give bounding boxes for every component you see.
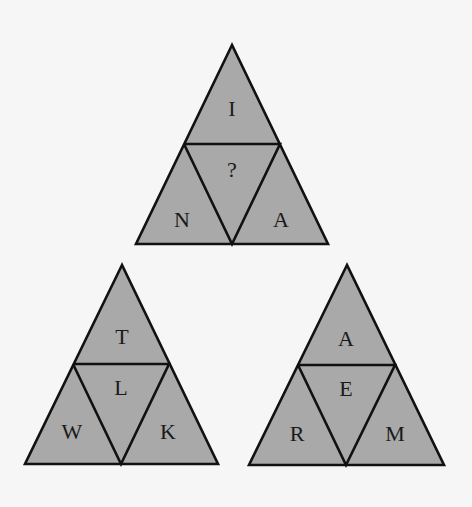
triangle-top: I ? N A bbox=[136, 45, 328, 244]
triangle-top-right-letter: A bbox=[273, 207, 289, 232]
triangle-bottom-right-left-letter: R bbox=[290, 421, 305, 446]
triangle-bottom-left: T L W K bbox=[25, 265, 218, 464]
triangle-top-top-letter: I bbox=[228, 96, 235, 121]
puzzle-canvas: I ? N A T L W K A E R M bbox=[0, 0, 472, 507]
triangle-bottom-right-top-letter: A bbox=[338, 326, 354, 351]
triangle-bottom-left-center-letter: L bbox=[114, 375, 127, 400]
triangle-bottom-right: A E R M bbox=[249, 265, 444, 465]
triangle-bottom-left-top-letter: T bbox=[115, 324, 129, 349]
triangle-bottom-left-left-letter: W bbox=[62, 419, 83, 444]
triangle-top-left-letter: N bbox=[174, 207, 190, 232]
triangle-bottom-left-right-letter: K bbox=[160, 419, 176, 444]
triangle-top-center-letter: ? bbox=[227, 157, 237, 182]
triangle-bottom-right-center-letter: E bbox=[339, 376, 352, 401]
triangle-bottom-right-right-letter: M bbox=[385, 421, 405, 446]
